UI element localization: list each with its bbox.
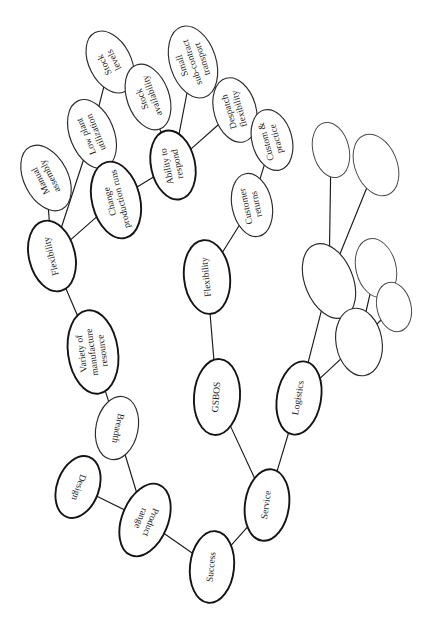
node-blank-a[interactable] (307, 118, 355, 181)
node-layer: ManualassemblyLow plantutilizationStockl… (11, 20, 417, 605)
edge-custom-practice-to-customer-returns (260, 165, 264, 179)
node-blank-b[interactable] (345, 127, 408, 202)
edge-manual-assembly-to-flexibility-left (48, 210, 49, 221)
edge-product-range-to-success (164, 533, 192, 553)
node-manual-assembly[interactable]: Manualassembly (11, 137, 82, 219)
edge-despatch-flexibility-to-ability-to-respond (191, 125, 219, 149)
edge-change-production-runs-to-ability-to-respond (137, 177, 154, 187)
edge-small-subcontract-to-ability-to-respond (179, 93, 187, 134)
cognitive-map-svg: ManualassemblyLow plantutilizationStockl… (0, 0, 422, 644)
node-flexibility-left[interactable]: Flexibility (21, 216, 83, 297)
node-service[interactable]: Service (240, 466, 294, 543)
node-ability-to-respond[interactable]: Ability torespond (144, 126, 202, 204)
edge-breadth-to-product-range (125, 455, 136, 492)
edge-blank-c-to-blank-a (330, 177, 331, 246)
edge-success-to-service (231, 527, 248, 546)
edge-variety-manufacture-to-breadth (105, 391, 108, 401)
node-gsbos[interactable]: GSBOS (191, 357, 242, 436)
node-customer-returns[interactable]: Customerreturns (226, 170, 278, 241)
node-logistics[interactable]: Logistics (271, 358, 327, 439)
node-label-gsbos: GSBOS (210, 381, 222, 412)
node-design[interactable]: Design (47, 450, 108, 525)
edge-flexibility-right-to-gsbos (210, 314, 214, 360)
edge-blank-f-to-blank-d (366, 294, 370, 311)
edge-design-to-product-range (97, 496, 124, 510)
node-breadth[interactable]: Breadth (90, 392, 144, 463)
node-product-range[interactable]: Productrange (109, 476, 180, 564)
edge-low-plant-utilization-to-stock-levels (99, 87, 104, 106)
node-variety-manufacture[interactable]: Variety ofmanufactureresource (62, 307, 123, 397)
node-success[interactable]: Success (186, 529, 237, 605)
edge-customer-returns-to-flexibility-right (222, 226, 239, 253)
diagram-canvas: ManualassemblyLow plantutilizationStockl… (0, 0, 422, 644)
edge-blank-f-to-blank-e (377, 320, 381, 324)
node-change-production-runs[interactable]: Changeproduction runs (83, 156, 148, 243)
node-flexibility-right[interactable]: Flexibility (180, 238, 233, 316)
edge-change-production-runs-to-flexibility-left (70, 217, 96, 240)
edge-service-to-logistics (277, 433, 288, 471)
node-shape-blank-a (307, 118, 355, 181)
edge-logistics-to-blank-c (308, 311, 321, 362)
edge-flexibility-left-to-variety-manufacture (66, 289, 78, 316)
edge-logistics-to-blank-f (320, 359, 341, 378)
edge-service-to-gsbos (230, 426, 254, 478)
node-shape-blank-b (345, 127, 408, 202)
